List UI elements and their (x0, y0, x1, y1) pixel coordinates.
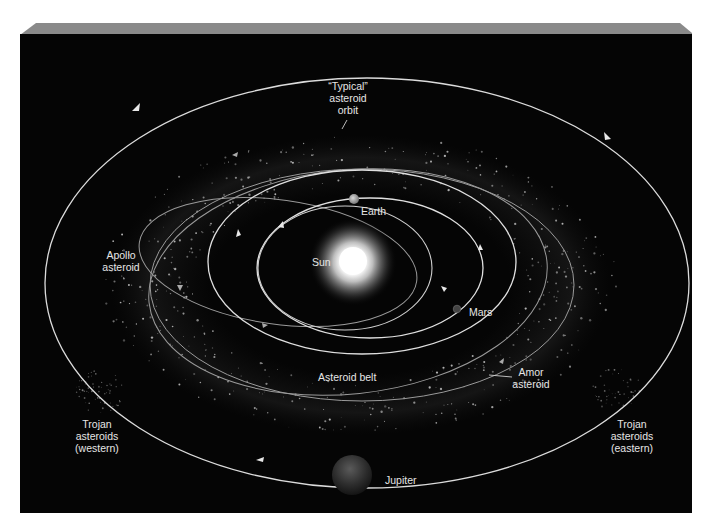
apollo-label-line1: Apollo (96, 249, 146, 261)
trojan-eastern-label-line3: (eastern) (603, 442, 661, 454)
typical-orbit-label-line2: asteroid (318, 92, 378, 104)
mars-label: Mars (469, 306, 492, 318)
amor-label-line2: asteroid (506, 378, 556, 390)
typical-orbit-label-line1: “Typical” (318, 80, 378, 92)
apollo-label: Apollo asteroid (96, 249, 146, 273)
amor-label: Amor asteroid (506, 366, 556, 390)
earth-planet (349, 194, 359, 204)
trojan-eastern-label: Trojan asteroids (eastern) (603, 418, 661, 454)
earth-label: Earth (361, 205, 386, 217)
panel-top-bevel (20, 23, 692, 35)
asteroid-belt-label: Asteroid belt (318, 371, 376, 383)
trojan-eastern-label-line2: asteroids (603, 430, 661, 442)
trojan-western-label-line2: asteroids (68, 430, 126, 442)
trojan-western-label: Trojan asteroids (western) (68, 418, 126, 454)
trojan-western-label-line3: (western) (68, 442, 126, 454)
apollo-label-line2: asteroid (96, 261, 146, 273)
trojan-western-label-line1: Trojan (68, 418, 126, 430)
mars-planet (453, 305, 461, 313)
typical-orbit-label: “Typical” asteroid orbit (318, 80, 378, 116)
amor-label-line1: Amor (506, 366, 556, 378)
jupiter-label: Jupiter (385, 474, 417, 486)
sun-core (339, 247, 367, 275)
sun-label: Sun (312, 256, 331, 268)
trojan-eastern-label-line1: Trojan (603, 418, 661, 430)
solar-system-diagram: “Typical” asteroid orbit Earth Sun Mars … (0, 0, 706, 526)
jupiter-planet (332, 455, 372, 495)
typical-orbit-label-line3: orbit (318, 104, 378, 116)
